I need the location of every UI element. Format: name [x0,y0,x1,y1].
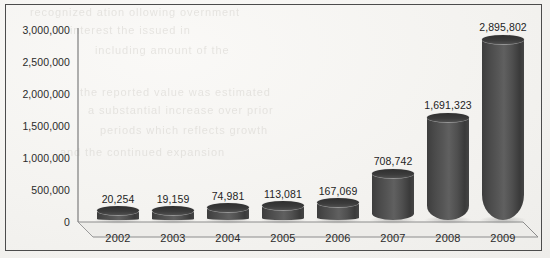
bar-value-label-2008: 1,691,323 [413,99,483,111]
bar-2003 [152,206,194,220]
bar-top-cap [482,35,524,44]
bar-2004 [207,203,249,220]
y-tick-label: 2,500,000 [4,56,70,68]
y-tick-label: 1,500,000 [4,120,70,132]
bar-2002 [97,206,139,220]
bar-top-cap [317,198,359,207]
scanned-chart-page: recognized ation ollowing overnment inte… [0,0,550,258]
bar-chart: 3,000,000 2,500,000 2,000,000 1,500,000 … [0,0,550,258]
bar-2005 [262,201,304,220]
bar-value-label-2009: 2,895,802 [468,21,538,33]
x-tick-label-2003: 2003 [145,232,201,244]
x-tick-label-2009: 2009 [475,232,531,244]
x-tick-label-2007: 2007 [365,232,421,244]
y-tick-label: 0 [4,216,70,228]
bar-top-cap [207,203,249,212]
bar-top-cap [152,206,194,215]
bar-2007 [372,169,414,220]
x-tick-label-2006: 2006 [310,232,366,244]
bar-body [372,174,414,220]
y-tick-label: 500,000 [4,184,70,196]
bar-top-cap [262,201,304,210]
y-tick-label: 1,000,000 [4,152,70,164]
x-tick-label-2008: 2008 [420,232,476,244]
bar-2006 [317,198,359,220]
x-tick-label-2004: 2004 [200,232,256,244]
bar-top-cap [97,206,139,215]
bar-top-cap [372,169,414,178]
bar-2008 [427,113,469,220]
bar-body [427,118,469,220]
bar-2009 [482,35,524,220]
x-tick-label-2002: 2002 [90,232,146,244]
bar-value-label-2007: 708,742 [358,155,428,167]
bar-body [482,40,524,220]
x-tick-label-2005: 2005 [255,232,311,244]
bar-value-label-2006: 167,069 [303,185,373,197]
y-tick-label: 2,000,000 [4,88,70,100]
y-tick-label: 3,000,000 [4,24,70,36]
bar-top-cap [427,113,469,122]
